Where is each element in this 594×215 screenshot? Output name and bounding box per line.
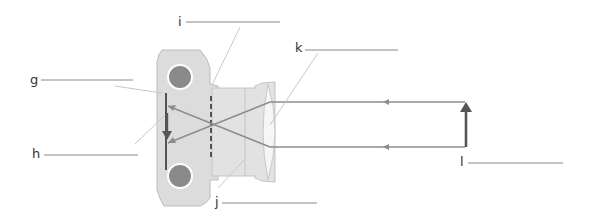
- label-k: k: [295, 40, 398, 55]
- label-i: i: [178, 14, 280, 29]
- label-l: l: [460, 154, 563, 169]
- svg-text:l: l: [460, 154, 464, 169]
- svg-text:j: j: [214, 194, 219, 209]
- svg-text:k: k: [295, 40, 303, 55]
- svg-text:h: h: [32, 146, 40, 161]
- label-h: h: [32, 146, 138, 161]
- camera-diagram: g h i j k l: [0, 0, 594, 215]
- object-arrow: [460, 102, 472, 147]
- film-roller-top: [167, 64, 193, 90]
- svg-text:i: i: [178, 14, 182, 29]
- svg-text:g: g: [30, 72, 38, 87]
- label-j: j: [214, 194, 317, 209]
- label-g: g: [30, 72, 133, 87]
- film-roller-bottom: [167, 163, 193, 189]
